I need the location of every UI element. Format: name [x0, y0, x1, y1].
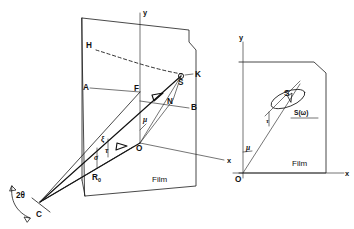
- left-x-axis-line: [140, 143, 224, 160]
- line-segment-N-B: [140, 101, 189, 108]
- point-B-label: B: [191, 103, 197, 112]
- right-point-S-label: S: [284, 89, 290, 98]
- point-A-label: A: [83, 83, 89, 92]
- angle-sigma-label: τ: [105, 146, 109, 155]
- point-F-label: F: [134, 84, 139, 93]
- left-panel: y x H A F B S K N O: [10, 8, 232, 222]
- ray-C-to-base: [40, 147, 133, 202]
- film-plane-outline: [82, 18, 196, 196]
- point-K-label: K: [195, 70, 201, 79]
- left-y-axis-label: y: [143, 8, 148, 17]
- right-y-axis-label: y: [239, 33, 244, 42]
- spot-trace-label: S(ω): [294, 109, 308, 117]
- right-film-outline: [239, 62, 326, 173]
- tick-to-K: [185, 74, 193, 75]
- right-film-label: Film: [292, 159, 307, 168]
- diagram-canvas: y x H A F B S K N O: [0, 0, 354, 229]
- point-H-label: H: [86, 41, 92, 50]
- right-angle-tau-label: τ: [266, 117, 269, 124]
- left-film-label: Film: [152, 175, 167, 184]
- right-x-axis-label: x: [345, 169, 350, 178]
- length-xi-label: ξ: [101, 135, 105, 144]
- point-C-label: C: [36, 210, 42, 219]
- angle-two-theta-label: 2θ: [16, 191, 26, 200]
- geometry-diagram: y x H A F B S K N O: [0, 0, 354, 229]
- right-angle-mu-label: μ: [245, 143, 250, 152]
- right-panel: y x O S S(ω) τ μ Film: [233, 33, 350, 184]
- angle-tau-label: σ: [94, 153, 99, 162]
- ray-base-arrowhead: [116, 143, 127, 150]
- angle-two-theta-arrowhead-bottom: [24, 217, 30, 222]
- left-x-axis-label: x: [227, 156, 232, 165]
- chord-S-to-O: [140, 76, 181, 143]
- dashed-layer-line-H: [96, 50, 182, 74]
- line-segment-A-F: [90, 88, 140, 92]
- angle-mu-arc-left: [140, 124, 146, 130]
- angle-mu-label-left: μ: [142, 115, 147, 124]
- right-point-O-label: O: [235, 175, 242, 184]
- radius-r-zero-label: R0: [92, 173, 101, 183]
